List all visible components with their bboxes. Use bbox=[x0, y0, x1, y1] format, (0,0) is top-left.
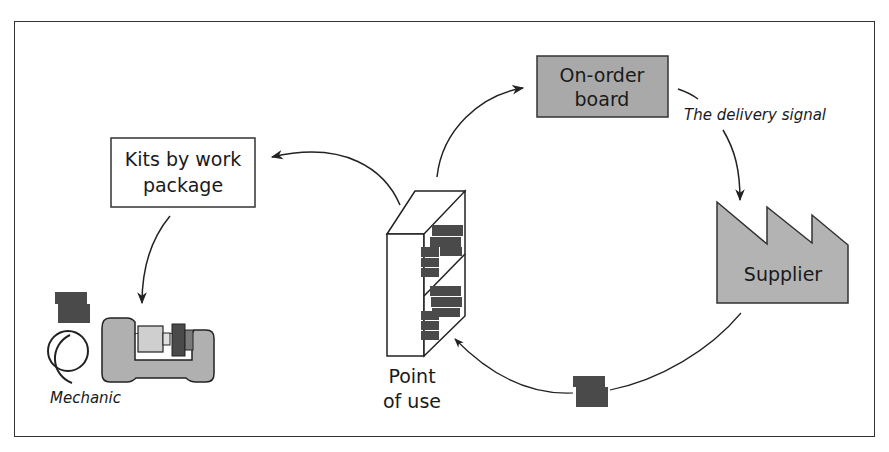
arrow-point-of-use-to-on-order-board bbox=[437, 88, 523, 177]
in-transit-parts-icon bbox=[573, 376, 608, 407]
point-of-use-shelf-icon: Point of use bbox=[383, 191, 465, 412]
machine-lathe-icon bbox=[102, 318, 214, 382]
arrow-supplier-to-parts bbox=[610, 313, 741, 390]
on-order-board-node: On-order board bbox=[537, 56, 668, 117]
supplier-factory-icon: Supplier bbox=[717, 202, 848, 303]
kits-label-line1: Kits by work bbox=[125, 148, 241, 170]
supplier-label: Supplier bbox=[744, 263, 822, 285]
point-of-use-label-line1: Point bbox=[388, 365, 435, 387]
kits-by-work-package-node: Kits by work package bbox=[111, 138, 255, 207]
arrow-parts-to-point-of-use bbox=[455, 339, 573, 393]
on-order-board-label-line2: board bbox=[575, 88, 630, 110]
arrow-on-order-board-to-supplier bbox=[678, 89, 698, 99]
arrow-kits-to-mechanic bbox=[142, 216, 170, 303]
point-of-use-label-line2: of use bbox=[383, 390, 441, 412]
delivery-signal-label: The delivery signal bbox=[684, 106, 827, 124]
mechanic-label: Mechanic bbox=[50, 389, 122, 407]
on-order-board-label-line1: On-order bbox=[560, 64, 645, 86]
arrow-point-of-use-to-kits bbox=[272, 152, 400, 205]
arrow-delivery-signal-to-supplier bbox=[723, 130, 740, 200]
kanban-flow-diagram: On-order board The delivery signal Kits … bbox=[0, 0, 889, 452]
mechanic-parts-icon bbox=[55, 292, 90, 323]
kits-label-line2: package bbox=[143, 174, 223, 196]
